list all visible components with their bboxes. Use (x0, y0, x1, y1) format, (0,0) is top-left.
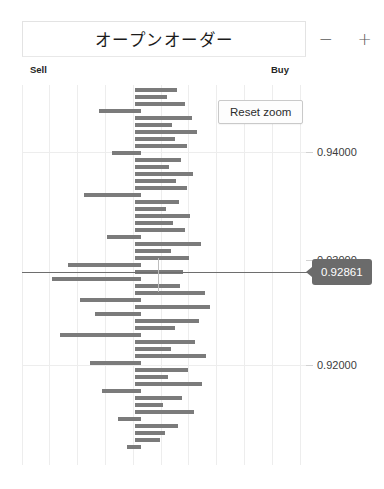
order-bar (135, 116, 192, 120)
order-bar (135, 403, 163, 407)
crosshair-line (22, 272, 342, 273)
order-bar (135, 424, 178, 428)
order-bar (102, 389, 141, 393)
order-bar (135, 137, 175, 141)
minus-icon[interactable]: − (315, 28, 337, 50)
y-tick-mark (306, 152, 313, 153)
order-bar (135, 207, 166, 211)
widget-header: オープンオーダー (22, 21, 306, 57)
order-bar (135, 123, 172, 127)
order-bar (135, 144, 187, 148)
order-bar (118, 417, 141, 421)
order-bar (135, 200, 179, 204)
order-bar (107, 235, 141, 239)
sell-label: Sell (30, 64, 47, 75)
crosshair-vertical (158, 258, 159, 292)
order-bar (135, 242, 201, 246)
order-bar (135, 326, 175, 330)
order-bar (68, 263, 141, 267)
depth-chart-plot[interactable] (22, 85, 306, 465)
order-bar (135, 88, 177, 92)
y-tick-label: 0.94000 (317, 146, 357, 158)
side-labels: Sell Buy (22, 57, 306, 85)
order-bar (95, 312, 141, 316)
order-bar (135, 256, 189, 260)
order-bar (99, 109, 141, 113)
order-bar (135, 340, 195, 344)
order-bar (135, 291, 205, 295)
order-bar (52, 277, 141, 281)
order-bar (135, 410, 194, 414)
reset-zoom-button[interactable]: Reset zoom (218, 100, 303, 124)
order-bar (90, 361, 141, 365)
order-bar (135, 305, 210, 309)
order-bar (135, 158, 181, 162)
order-bar (135, 347, 171, 351)
order-bar (135, 102, 185, 106)
order-bar (135, 354, 206, 358)
zoom-controls: − + (306, 21, 384, 57)
order-bar (135, 130, 197, 134)
order-bar (135, 396, 182, 400)
order-bar (60, 333, 141, 337)
order-bar (135, 375, 168, 379)
plus-icon[interactable]: + (354, 28, 376, 50)
order-bar (135, 382, 202, 386)
order-bar (135, 95, 167, 99)
price-tooltip: 0.92861 (312, 259, 372, 285)
order-bar (127, 445, 141, 449)
order-bars (22, 85, 306, 465)
buy-label: Buy (271, 64, 289, 75)
order-bar (80, 298, 141, 302)
order-bar (84, 193, 141, 197)
order-bar (135, 228, 185, 232)
order-bar (112, 151, 141, 155)
order-bar (135, 221, 173, 225)
order-bar (135, 214, 190, 218)
order-bar (135, 368, 188, 372)
order-bar (135, 431, 165, 435)
order-bar (135, 172, 193, 176)
y-tick-mark (306, 365, 313, 366)
order-bar (135, 249, 171, 253)
order-bar (135, 165, 169, 169)
y-tick-label: 0.92000 (317, 359, 357, 371)
page-title: オープンオーダー (95, 27, 234, 51)
order-bar (135, 319, 199, 323)
open-orders-widget: オープンオーダー − + Sell Buy 0.940000.930000.92… (0, 0, 384, 489)
order-bar (135, 186, 187, 190)
order-bar (135, 179, 176, 183)
order-bar (135, 438, 160, 442)
